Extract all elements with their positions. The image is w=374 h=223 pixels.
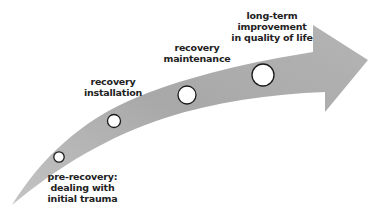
label-line: dealing with (40, 182, 125, 193)
stage-marker-recovery-installation (108, 115, 121, 128)
label-line: pre-recovery: (40, 171, 125, 182)
stage-marker-recovery-maintenance (178, 86, 196, 104)
stage-marker-pre-recovery (54, 152, 64, 162)
stage-label-recovery-maintenance: recovery maintenance (157, 42, 237, 64)
label-line: in quality of life (222, 32, 322, 43)
label-line: initial trauma (40, 193, 125, 204)
stage-label-pre-recovery: pre-recovery: dealing with initial traum… (40, 171, 125, 204)
stage-marker-long-term-improvement (252, 64, 274, 86)
label-line: long-term (222, 10, 322, 21)
label-line: improvement (222, 21, 322, 32)
label-line: installation (78, 87, 148, 98)
stage-label-long-term-improvement: long-term improvement in quality of life (222, 10, 322, 43)
stage-label-recovery-installation: recovery installation (78, 76, 148, 98)
label-line: recovery (78, 76, 148, 87)
label-line: maintenance (157, 53, 237, 64)
label-line: recovery (157, 42, 237, 53)
